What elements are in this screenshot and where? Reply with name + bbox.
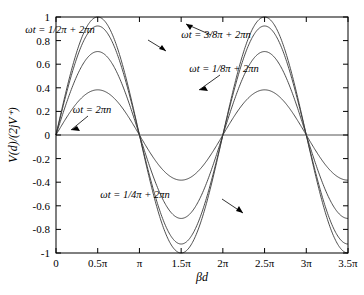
x-tick-label-1: 0.5π — [88, 257, 108, 269]
x-tick-label-0: 0 — [53, 257, 59, 269]
y-axis-title: V(d)/(2jV⁺) — [6, 107, 20, 162]
y-tick-label-6: -0.2 — [33, 153, 50, 165]
annot-quarter-pi: ωt = 1/4π + 2πn — [100, 189, 169, 200]
x-tick-label-6: 3π — [301, 257, 313, 269]
y-tick-label-2: 0.6 — [36, 58, 50, 70]
annot-two-pi-n: ωt = 2πn — [73, 104, 111, 115]
annot-one-eighth-pi: ωt = 1/8π + 2πn — [189, 63, 258, 74]
x-tick-label-4: 2π — [217, 257, 229, 269]
annot-three-eighths-pi: ωt = 3/8π + 2πn — [181, 29, 250, 40]
y-tick-label-5: 0 — [45, 129, 51, 141]
y-tick-label-10: -1 — [41, 247, 50, 259]
y-tick-label-9: -0.8 — [33, 223, 51, 235]
y-tick-label-1: 0.8 — [36, 35, 50, 47]
x-axis-title: βd — [195, 270, 209, 284]
x-axis-tick-labels: 00.5ππ1.5π2π2.5π3π3.5π — [53, 257, 358, 269]
annot-half-pi: ωt = 1/2π + 2πn — [25, 24, 94, 35]
x-tick-label-2: π — [137, 257, 143, 269]
y-tick-label-7: -0.4 — [33, 176, 51, 188]
y-tick-label-3: 0.4 — [36, 82, 50, 94]
chart-figure: 00.5ππ1.5π2π2.5π3π3.5π 10.80.60.40.20-0.… — [0, 0, 364, 295]
voltage-standing-wave-chart: 00.5ππ1.5π2π2.5π3π3.5π 10.80.60.40.20-0.… — [0, 0, 364, 295]
x-tick-label-7: 3.5π — [338, 257, 358, 269]
y-tick-label-4: 0.2 — [36, 105, 50, 117]
y-axis-tick-labels: 10.80.60.40.20-0.2-0.4-0.6-0.8-1 — [33, 11, 51, 259]
x-tick-label-3: 1.5π — [171, 257, 191, 269]
x-tick-label-5: 2.5π — [255, 257, 275, 269]
y-tick-label-8: -0.6 — [33, 200, 51, 212]
y-tick-label-0: 1 — [45, 11, 51, 23]
